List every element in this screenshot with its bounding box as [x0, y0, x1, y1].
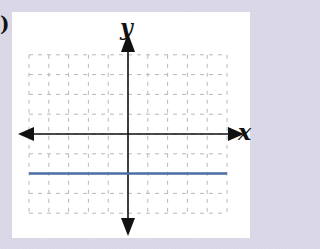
x-axis-left-arrow-icon: [18, 127, 34, 141]
x-axis-label: x: [238, 119, 251, 145]
y-axis-label: y: [120, 14, 133, 40]
y-axis-down-arrow-icon: [121, 218, 135, 236]
